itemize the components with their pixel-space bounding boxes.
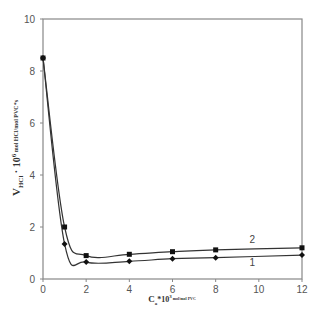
line-chart: 0246810120246810 12 Ca*103 mol/mol PVC V… (0, 0, 320, 320)
square-marker (84, 253, 89, 258)
square-marker (213, 247, 218, 252)
diamond-marker (83, 259, 89, 265)
x-axis-label: Ca*103 mol/mol PVC (148, 294, 196, 306)
diamond-marker (299, 252, 305, 258)
data-series (40, 55, 305, 266)
square-marker (170, 249, 175, 254)
diamond-marker (170, 256, 176, 262)
series-1 (40, 55, 305, 266)
square-marker (300, 245, 305, 250)
y-tick-label: 0 (29, 274, 35, 285)
y-tick-label: 10 (24, 14, 36, 25)
x-tick-label: 8 (213, 284, 219, 295)
x-tick-label: 0 (40, 284, 46, 295)
diamond-marker (213, 255, 219, 261)
square-marker (62, 225, 67, 230)
y-tick-label: 2 (29, 222, 35, 233)
diamond-marker (62, 241, 68, 247)
plot-frame (43, 19, 302, 279)
square-marker (127, 252, 132, 257)
series-2 (41, 56, 305, 259)
y-axis-label: VHCl · 106 mol HCl/mol PVC*s (10, 99, 25, 196)
y-tick-label: 8 (29, 66, 35, 77)
y-tick-label: 6 (29, 118, 35, 129)
x-tick-label: 10 (253, 284, 265, 295)
x-tick-label: 2 (83, 284, 89, 295)
x-tick-label: 4 (127, 284, 133, 295)
series-label: 2 (250, 234, 256, 245)
series-label: 1 (250, 257, 256, 268)
y-tick-label: 4 (29, 170, 35, 181)
diamond-marker (126, 258, 132, 264)
x-tick-label: 12 (296, 284, 308, 295)
series-labels: 12 (250, 234, 256, 268)
square-marker (41, 56, 46, 61)
